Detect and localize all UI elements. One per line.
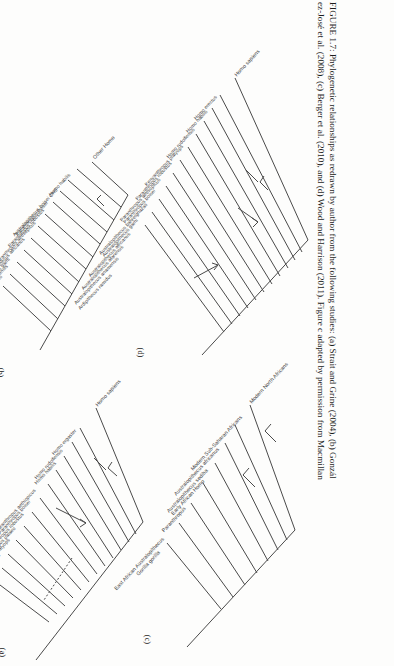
figure-page: (b) Other Homo Homo habilis Australopith… <box>0 0 394 666</box>
figure-caption: FIGURE 1.7: Phylogenetic relationships a… <box>284 0 339 666</box>
cladogram-panel-b: (b) Other Homo Homo habilis Australopith… <box>0 150 160 380</box>
panel-letter-c: (c) <box>143 635 152 644</box>
panel-letter-a: (a) <box>0 648 7 657</box>
panel-letter-b: (b) <box>0 368 5 378</box>
caption-line-2: ez-José et al. (2008), (c) Berger et al.… <box>314 0 326 666</box>
panel-letter-d: (d) <box>136 348 145 358</box>
panel-b-tree <box>0 150 160 380</box>
caption-line-1: FIGURE 1.7: Phylogenetic relationships a… <box>327 0 339 666</box>
